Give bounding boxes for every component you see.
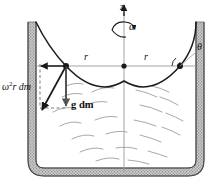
theta-arc: [172, 58, 176, 66]
radius-label-left: r: [84, 52, 88, 62]
centrifugal-omega-symbol: ω: [2, 81, 9, 92]
container-inner-outline: [36, 22, 196, 168]
rotating-fluid-diagram: z ω r r θ ω2r dm g dm: [0, 0, 215, 183]
container-outer-outline: [28, 22, 204, 176]
container-wall-fill: [28, 22, 204, 176]
omega-label: ω: [129, 22, 136, 32]
container-vessel: [28, 22, 204, 176]
resultant-force-vector: [42, 66, 66, 110]
gravity-force-label: g dm: [71, 100, 93, 111]
theta-label: θ: [197, 42, 202, 52]
z-axis-label: z: [120, 2, 124, 12]
centrifugal-force-body: r dm: [12, 81, 31, 92]
radius-label-right: r: [144, 52, 148, 62]
gravity-force-text: g dm: [71, 99, 93, 110]
axis-center-point: [121, 63, 126, 68]
centrifugal-force-label: ω2r dm: [2, 81, 31, 92]
fluid-streaks: [53, 83, 183, 164]
diagram-canvas: [0, 0, 215, 183]
force-vector-group: [40, 64, 66, 110]
